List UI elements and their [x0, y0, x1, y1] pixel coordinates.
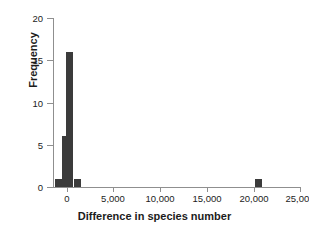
x-tick-0 — [67, 187, 68, 192]
x-tick-15000 — [207, 187, 208, 192]
y-tick-label-5: 5 — [38, 141, 43, 151]
histogram-bar — [66, 52, 73, 187]
y-tick-15 — [47, 60, 53, 61]
x-tick-label-0: 0 — [64, 194, 69, 204]
x-tick-10000 — [160, 187, 161, 192]
x-tick-25000 — [300, 187, 301, 192]
y-tick-label-0: 0 — [38, 183, 43, 193]
y-tick-10 — [47, 103, 53, 104]
y-tick-label-15: 15 — [32, 56, 43, 66]
histogram-bar — [55, 179, 62, 187]
y-tick-label-10: 10 — [32, 99, 43, 109]
y-tick-0 — [47, 187, 53, 188]
y-axis-line — [53, 18, 54, 187]
x-tick-5000 — [113, 187, 114, 192]
x-tick-label-15000: 15,000 — [192, 194, 221, 204]
x-tick-label-5000: 5,000 — [101, 194, 125, 204]
x-axis-line — [53, 187, 301, 188]
x-tick-20000 — [254, 187, 255, 192]
y-tick-label-20: 20 — [32, 14, 43, 24]
histogram-bar — [255, 179, 262, 187]
x-tick-label-10000: 10,000 — [145, 194, 174, 204]
histogram-figure: Frequency Difference in species number 0… — [0, 0, 309, 233]
histogram-bar — [74, 179, 81, 187]
x-tick-label-25000: 25,000 — [285, 194, 309, 204]
y-tick-5 — [47, 145, 53, 146]
x-tick-label-20000: 20,000 — [239, 194, 268, 204]
x-axis-title: Difference in species number — [0, 210, 309, 222]
y-tick-20 — [47, 18, 53, 19]
